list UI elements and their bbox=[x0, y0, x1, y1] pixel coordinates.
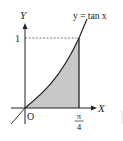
y-axis-arrow-icon bbox=[23, 23, 28, 29]
x-tick-denominator: 4 bbox=[77, 122, 82, 132]
curve-extension-below-origin bbox=[11, 108, 25, 124]
shaded-area bbox=[25, 38, 79, 108]
curve-label: y = tan x bbox=[73, 11, 107, 21]
origin-label: O bbox=[27, 111, 34, 122]
y-tick-label-1: 1 bbox=[15, 33, 20, 44]
x-axis-arrow-icon bbox=[91, 106, 97, 111]
y-axis-label: Y bbox=[20, 9, 28, 21]
tan-area-diagram: Y 1 y = tan x O X π 4 bbox=[0, 0, 123, 141]
x-axis-label: X bbox=[97, 102, 106, 114]
x-tick-numerator: π bbox=[77, 111, 82, 121]
